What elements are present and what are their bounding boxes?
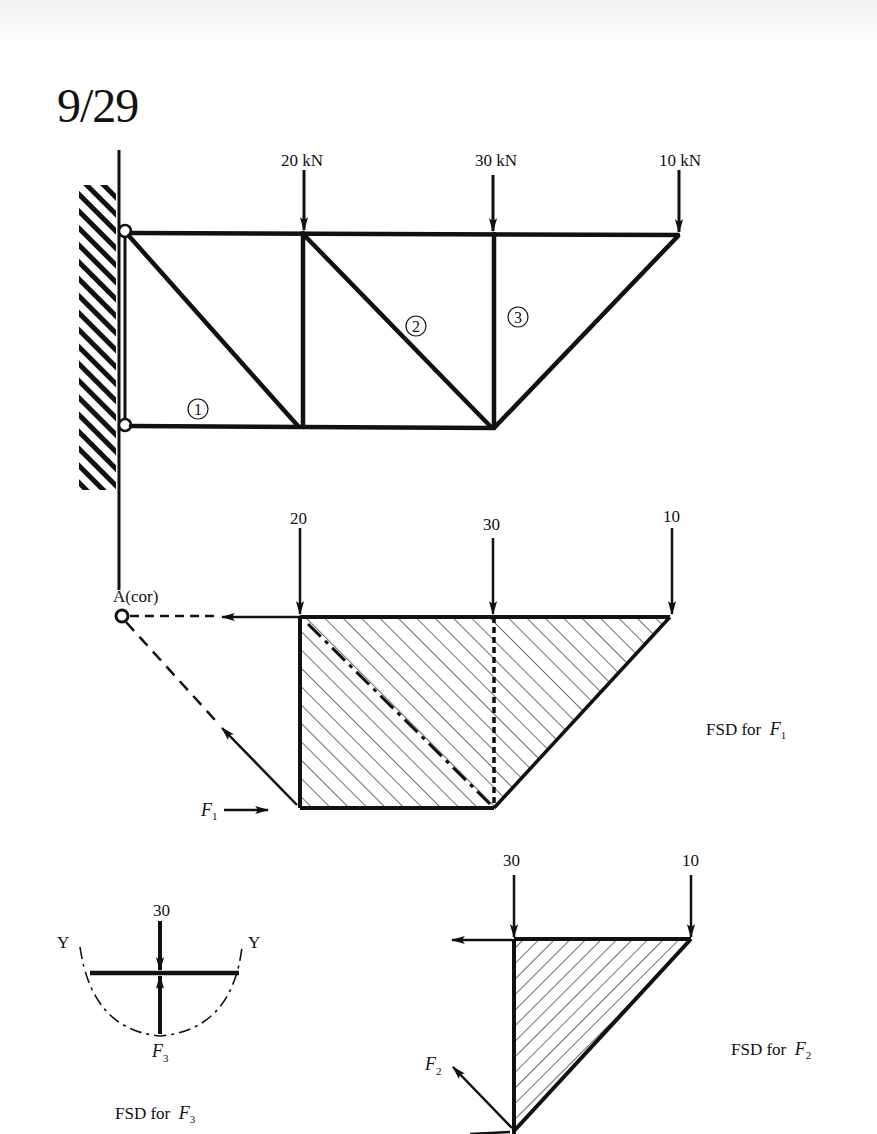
svg-text:1: 1 [212,810,218,822]
truss-loads: 20 kN 30 kN 10 kN [281,151,701,232]
svg-text:30: 30 [483,515,500,534]
caption-fsd-f1: FSD for F1 [706,719,786,741]
caption-fsd-f2: FSD for F2 [731,1039,811,1061]
svg-text:30: 30 [153,901,170,920]
truss-members [129,233,678,428]
fsd-f2: F 2 30 10 [424,851,699,1134]
svg-text:Y: Y [57,933,69,952]
force-arrow-diagonal-icon [222,728,297,805]
svg-text:A(cor): A(cor) [113,587,158,606]
svg-text:30 kN: 30 kN [475,151,517,170]
caption-fsd-f3: FSD for F3 [115,1103,195,1125]
svg-text:10 kN: 10 kN [659,151,701,170]
force-arrow-f2-icon [453,1067,512,1128]
svg-text:Y: Y [248,933,260,952]
textbook-page: 9/29 [0,0,877,1134]
svg-text:20 kN: 20 kN [281,151,323,170]
fsd-f1: A(cor) F 1 20 30 10 [113,507,680,822]
svg-text:10: 10 [682,851,699,870]
pivot-point-icon [116,610,128,622]
svg-text:1: 1 [194,401,202,418]
svg-text:10: 10 [663,507,680,526]
fsd-f3: 30 Y Y F 3 [57,901,260,1064]
truss-diagram: 1 2 3 20 kN 30 kN 10 kN A(cor) [0,0,877,1134]
svg-text:2: 2 [436,1065,442,1077]
svg-text:20: 20 [290,509,307,528]
svg-text:30: 30 [503,851,520,870]
svg-text:3: 3 [514,309,522,326]
wall-support [79,150,131,590]
svg-text:3: 3 [163,1052,169,1064]
hatched-free-body [300,617,670,808]
svg-text:2: 2 [412,318,420,335]
